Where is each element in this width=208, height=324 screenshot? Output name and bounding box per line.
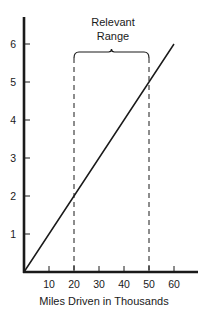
x-ticks: 102030405060 — [43, 266, 180, 290]
y-tick-label: 6 — [10, 38, 16, 50]
x-tick-label: 40 — [118, 278, 130, 290]
range-brace — [74, 49, 149, 58]
x-tick-label: 60 — [168, 278, 180, 290]
y-tick-label: 1 — [10, 228, 16, 240]
y-tick-label: 3 — [10, 152, 16, 164]
x-axis-title: Miles Driven in Thousands — [39, 295, 169, 307]
y-tick-label: 2 — [10, 190, 16, 202]
relevant-range-annotation — [74, 49, 149, 272]
chart: 123456 102030405060 Relevant Range Miles… — [0, 0, 208, 324]
y-ticks: 123456 — [10, 38, 30, 240]
x-tick-label: 10 — [43, 278, 55, 290]
y-tick-label: 5 — [10, 76, 16, 88]
range-label-line2: Range — [97, 30, 129, 42]
cost-line — [24, 44, 174, 272]
x-tick-label: 30 — [93, 278, 105, 290]
x-tick-label: 20 — [68, 278, 80, 290]
range-label-line1: Relevant — [91, 16, 134, 28]
x-tick-label: 50 — [143, 278, 155, 290]
y-tick-label: 4 — [10, 114, 16, 126]
